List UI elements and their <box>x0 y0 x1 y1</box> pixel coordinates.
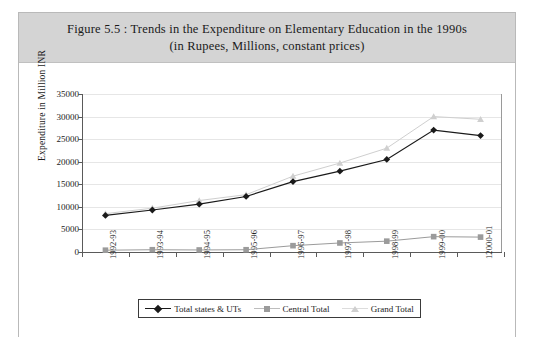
diamond-marker-icon <box>145 304 171 313</box>
y-tickmark <box>78 162 82 163</box>
data-point-marker <box>196 247 202 253</box>
data-point-marker <box>384 238 390 244</box>
y-tickmark <box>78 139 82 140</box>
legend-item-total-states: Total states & UTs <box>145 304 241 314</box>
figure-title-line-2: (in Rupees, Millions, constant prices) <box>169 38 364 55</box>
chart-legend: Total states & UTs Central Total Grand T… <box>138 299 421 318</box>
legend-item-central-total: Central Total <box>254 304 330 314</box>
legend-label-central-total: Central Total <box>283 304 330 314</box>
triangle-marker-icon <box>342 304 368 313</box>
y-tickmark <box>78 184 82 185</box>
data-point-marker <box>383 156 390 163</box>
data-point-marker <box>477 132 484 139</box>
data-point-marker <box>150 247 156 253</box>
legend-label-total-states: Total states & UTs <box>174 304 241 314</box>
data-point-marker <box>430 127 437 134</box>
data-point-marker <box>337 240 343 246</box>
figure-title-line-1: Figure 5.5 : Trends in the Expenditure o… <box>67 21 467 38</box>
square-marker-icon <box>254 304 280 313</box>
data-point-marker <box>243 247 249 253</box>
chart-plot-area: Expenditure in Million INR 0500010000150… <box>19 63 515 337</box>
data-point-marker <box>383 145 390 151</box>
figure-title-band: Figure 5.5 : Trends in the Expenditure o… <box>19 13 515 63</box>
data-point-marker <box>430 113 437 119</box>
data-point-marker <box>431 234 437 240</box>
data-point-marker <box>290 243 296 249</box>
data-point-marker <box>290 178 297 185</box>
y-tickmark <box>78 117 82 118</box>
data-point-marker <box>103 247 109 253</box>
y-tickmark <box>78 207 82 208</box>
y-tickmark <box>78 252 82 253</box>
series-line-grand-total <box>105 117 480 214</box>
legend-label-grand-total: Grand Total <box>371 304 414 314</box>
y-tickmark <box>78 229 82 230</box>
y-tickmark <box>78 94 82 95</box>
legend-item-grand-total: Grand Total <box>342 304 414 314</box>
chart-series-layer <box>19 63 517 337</box>
data-point-marker <box>478 234 484 240</box>
data-point-marker <box>336 168 343 175</box>
figure-container: Figure 5.5 : Trends in the Expenditure o… <box>18 12 516 337</box>
